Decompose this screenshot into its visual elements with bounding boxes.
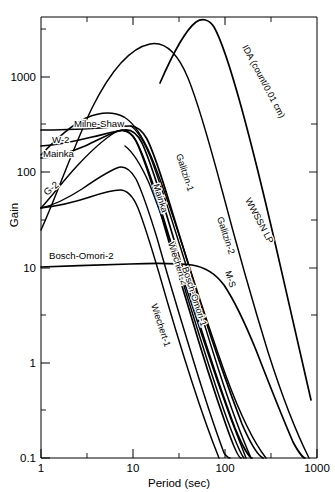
x-tick-1000: 1000 (304, 462, 330, 474)
curve-bosch-omori-1 (125, 146, 246, 458)
curve-ida (160, 20, 311, 400)
y-tick-1: 1 (30, 357, 36, 369)
curve-milne-shaw (41, 126, 263, 458)
y-axis-title: Gain (8, 203, 20, 227)
label-g2: G-2 (41, 179, 60, 198)
x-tick-100: 100 (215, 462, 234, 474)
label-mainka-left: Mainka (43, 148, 75, 159)
y-tick-0-1: 0.1 (20, 452, 36, 464)
y-tick-1000: 1000 (10, 71, 36, 83)
label-galitzin-1: Galitzin-1 (174, 153, 196, 193)
curve-galitzin-1 (41, 130, 244, 458)
label-bosch-omori-2: Bosch-Omori-2 (49, 250, 114, 261)
plot-frame (41, 17, 317, 458)
x-tick-1: 1 (38, 462, 44, 474)
y-axis-ticks (41, 29, 50, 458)
label-galitzin-2: Galitzin-2 (215, 216, 237, 256)
figure-seismograph-response: 1000 100 10 1 0.1 1 10 100 1000 Period (… (0, 0, 335, 492)
curve-wiechert-1 (41, 190, 219, 458)
y-tick-labels: 1000 100 10 1 0.1 (10, 71, 36, 464)
y-tick-100: 100 (17, 166, 36, 178)
curve-labels-layer: Milne-Shaw W-2 Mainka G-2 Bosch-Omori-2 … (41, 43, 287, 348)
x-tick-labels: 1 10 100 1000 (38, 462, 330, 474)
y-tick-10: 10 (23, 262, 36, 274)
x-axis-ticks (41, 17, 317, 458)
label-w2: W-2 (52, 134, 69, 145)
curve-mainka (41, 130, 241, 458)
label-milne-shaw: Milne-Shaw (74, 118, 124, 129)
x-tick-10: 10 (127, 462, 140, 474)
gain-vs-period-chart: 1000 100 10 1 0.1 1 10 100 1000 Period (… (0, 0, 335, 492)
label-ida: IDA (count/0.01 cm) (240, 43, 287, 119)
x-axis-title: Period (sec) (148, 477, 210, 489)
